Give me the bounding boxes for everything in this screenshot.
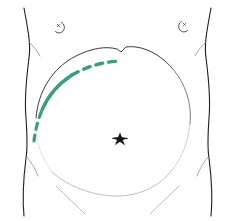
torso-diagram-svg <box>0 0 235 221</box>
torso-diagram-figure <box>0 0 235 221</box>
figure-background <box>0 0 235 221</box>
